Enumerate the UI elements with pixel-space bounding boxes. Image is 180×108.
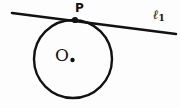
center-point-dot: [70, 58, 74, 62]
geometry-figure: P O ℓ1: [0, 0, 180, 108]
tangent-line: [12, 13, 176, 34]
label-line-subscript: 1: [159, 13, 165, 23]
tangent-point-dot: [72, 17, 78, 23]
label-center-o: O: [55, 47, 69, 64]
label-line-l1: ℓ1: [153, 8, 165, 23]
label-point-p: P: [75, 2, 84, 14]
